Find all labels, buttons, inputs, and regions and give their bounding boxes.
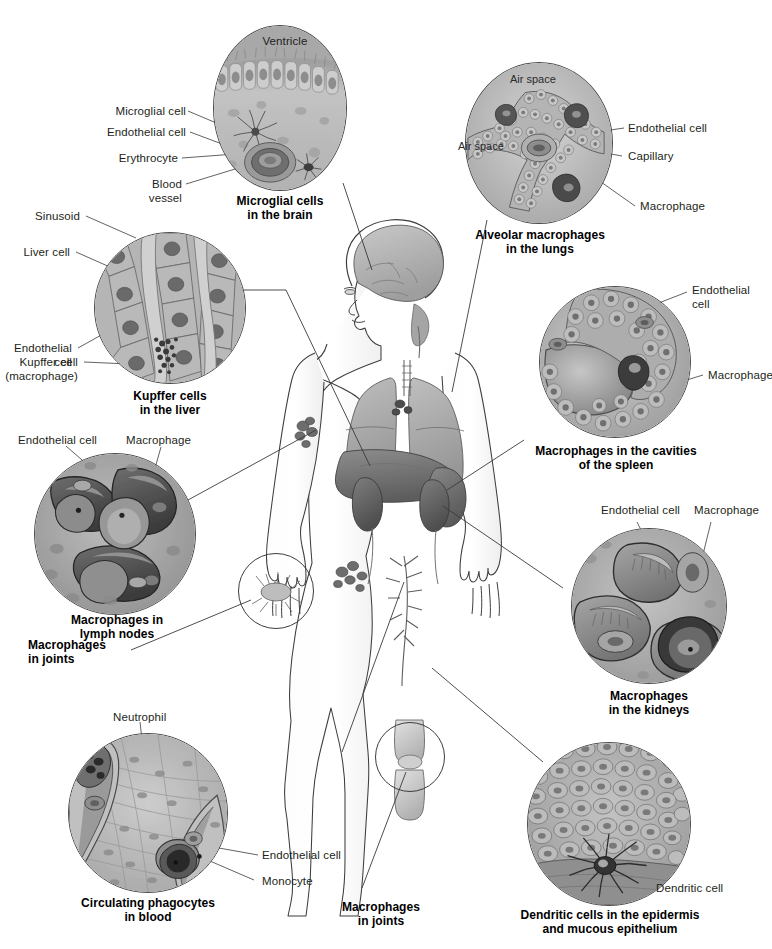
callout-spleen-macrophage: Macrophage <box>708 368 772 382</box>
callout-blood-endothelial-cell: Endothelial cell <box>262 848 341 862</box>
label-air-space-2: Air space <box>458 140 504 152</box>
callout-sinusoid: Sinusoid <box>0 209 80 223</box>
callout-dendritic-cell: Dendritic cell <box>656 881 723 895</box>
callout-neutrophil: Neutrophil <box>113 710 166 724</box>
callout-lung-macrophage: Macrophage <box>640 199 705 213</box>
callout-erythrocyte: Erythrocyte <box>84 151 178 165</box>
micrograph-blood <box>68 733 228 893</box>
caption-lungs: Alveolar macrophages in the lungs <box>452 228 628 257</box>
zoom-ring-hand-joint <box>238 553 314 629</box>
body-right-hand <box>472 582 499 618</box>
callout-liver-cell: Liver cell <box>0 245 70 259</box>
caption-spleen: Macrophages in the cavities of the splee… <box>508 444 724 473</box>
callout-kidney-endothelial-cell: Endothelial cell <box>601 503 680 517</box>
caption-brain: Microglial cells in the brain <box>218 194 342 223</box>
capillary-art <box>521 134 557 162</box>
callout-lung-endothelial-cell: Endothelial cell <box>628 121 707 135</box>
label-air-space-1: Air space <box>510 73 556 85</box>
micrograph-brain <box>213 25 347 191</box>
lymphatic-vessel <box>386 556 422 686</box>
blood-vessel-art <box>245 143 296 183</box>
callout-kidney-macrophage: Macrophage <box>694 503 759 517</box>
zoom-ring-knee-joint <box>375 722 445 792</box>
callout-brain-endothelial-cell: Endothelial cell <box>60 125 186 139</box>
caption-kidney: Macrophages in the kidneys <box>589 689 709 718</box>
micrograph-spleen <box>539 286 691 438</box>
caption-blood: Circulating phagocytes in blood <box>66 896 230 925</box>
caption-joints-hand: Macrophages in joints <box>28 638 138 667</box>
caption-epidermis: Dendritic cells in the epidermis and muc… <box>500 908 720 937</box>
callout-kupffer-cell: Kupffer cell (macrophage) <box>0 355 78 383</box>
callout-lymph-macrophage: Macrophage <box>126 433 191 447</box>
callout-blood-vessel: Blood vessel <box>108 177 182 205</box>
micrograph-kidney <box>571 528 727 684</box>
micrograph-liver <box>94 232 246 384</box>
callout-lymph-endothelial-cell: Endothelial cell <box>18 433 97 447</box>
callout-monocyte: Monocyte <box>262 874 313 888</box>
caption-liver: Kupffer cells in the liver <box>110 389 230 418</box>
callout-microglial-cell: Microglial cell <box>64 104 186 118</box>
micrograph-lymph <box>34 453 196 615</box>
callout-spleen-endothelial-cell: Endothelial cell <box>692 283 750 311</box>
label-ventricle: Ventricle <box>245 34 325 48</box>
macrophage-body-map-figure: Ventricle Microglial cell Endothelial ce… <box>0 0 772 949</box>
caption-joints-knee: Macrophages in joints <box>325 900 437 929</box>
callout-capillary: Capillary <box>628 149 674 163</box>
spleen-macrophage-art <box>618 356 649 390</box>
